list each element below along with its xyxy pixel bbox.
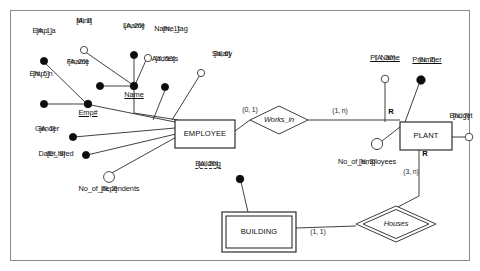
link-salary-employee	[172, 75, 200, 120]
cardinality-works-in-plant: (1, n)	[332, 107, 347, 115]
link-pnumber-plant	[405, 84, 419, 122]
cardinality-plant-houses: (3, n)	[403, 168, 418, 176]
attr-name-name_tag: Name_tag	[154, 25, 187, 33]
role-marker-plant-works-in: R	[388, 108, 393, 117]
role-marker-plant-houses: R	[422, 150, 427, 159]
link-houses-down	[396, 196, 419, 208]
attr-name-salary: Salary	[212, 50, 232, 58]
attr-name-lname: Lname	[123, 22, 145, 30]
link-employee-worksin	[235, 120, 250, 131]
entity-label-employee: EMPLOYEE	[184, 130, 227, 139]
attr-name-address: Address	[152, 55, 178, 63]
link-nodependents-employee	[110, 135, 180, 174]
link-building-houses	[296, 226, 356, 228]
relationship-label-houses: Houses	[384, 220, 408, 228]
attr-name-pl_name: Pl_Name	[370, 54, 400, 62]
link-minit-name	[84, 51, 133, 85]
attr-name-building_attr: Building	[195, 160, 221, 169]
attr-name-fname: Fname	[67, 58, 90, 66]
attr-name-name: Name	[124, 91, 143, 99]
entity-label-building: BUILDING	[241, 228, 278, 237]
attr-circle-address[interactable]	[161, 83, 168, 90]
attr-circle-no_of_employees[interactable]	[371, 138, 382, 149]
link-nametag-name	[135, 58, 147, 85]
attr-name-emp_num: Emp#	[79, 109, 98, 117]
attr-name-date_hired: Date_hired	[38, 150, 73, 158]
link-buildingattr-building	[241, 182, 248, 212]
attr-circle-minit[interactable]	[80, 46, 87, 53]
attr-circle-no_of_dependents[interactable]	[104, 172, 115, 183]
attr-name-emp_a: Emp_a	[33, 27, 56, 35]
attr-circle-emp_a[interactable]	[40, 57, 47, 64]
attr-circle-building_attr[interactable]	[236, 175, 244, 183]
attr-name-no_of_dependents: No_of_dependents	[79, 185, 140, 193]
attr-circle-budget[interactable]	[465, 133, 473, 141]
link-gender-employee	[74, 128, 175, 137]
attr-circle-pl_name[interactable]	[381, 75, 389, 83]
attr-name-gender: Gender	[35, 125, 59, 133]
attr-circle-name[interactable]	[130, 82, 138, 90]
attr-circle-emp_num[interactable]	[84, 100, 92, 108]
attr-name-emp_n: Emp_n	[30, 70, 53, 78]
attr-circle-date_hired[interactable]	[82, 151, 89, 158]
attr-name-pnumber: Pnumber	[412, 56, 441, 64]
cardinality-employee-works-in: (0, 1)	[242, 106, 257, 114]
link-empnum-employee	[91, 105, 175, 122]
attr-name-budget: Budget	[450, 112, 473, 120]
entity-label-plant: PLANT	[414, 132, 439, 141]
attr-circle-lname[interactable]	[130, 51, 137, 58]
attr-circle-emp_n[interactable]	[40, 100, 47, 107]
attr-name-no_of_employees: No_of_employees	[338, 158, 396, 166]
link-address-employee	[153, 90, 165, 120]
attr-circle-pnumber[interactable]	[417, 76, 425, 84]
link-name-employee-stem	[134, 113, 178, 120]
link-noofemployees-plant	[382, 127, 400, 141]
attr-name-minit: Minit	[76, 17, 91, 25]
cardinality-building-houses: (1, 1)	[310, 228, 325, 236]
relationship-label-works-in: Works_in	[264, 116, 294, 124]
attr-circle-name_tag[interactable]	[144, 54, 151, 61]
attr-circle-gender[interactable]	[69, 133, 76, 140]
er-diagram-canvas: [A, 1] Emp_a [A, 1] Minit [A, 20] Lname …	[0, 0, 480, 271]
attr-circle-fname[interactable]	[96, 82, 103, 89]
attr-circle-salary[interactable]	[197, 69, 204, 76]
